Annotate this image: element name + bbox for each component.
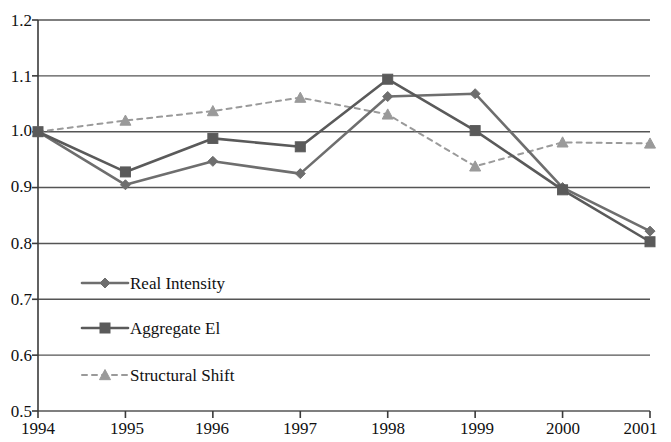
triangle-marker-icon <box>470 161 481 171</box>
legend-group <box>82 278 128 380</box>
y-tick-label-0-6: 0.6 <box>0 346 32 366</box>
y-tick-label-0-8: 0.8 <box>0 234 32 254</box>
diamond-marker-icon <box>100 278 110 288</box>
gridlines-group <box>38 20 650 411</box>
diamond-marker-icon <box>645 226 655 236</box>
x-tick-label-2001: 2001 <box>610 419 671 439</box>
x-tick-label-1994: 1994 <box>0 419 76 439</box>
series-real-intensity <box>33 89 655 236</box>
square-marker-icon <box>120 167 130 177</box>
chart-plot-area <box>0 0 671 442</box>
x-tick-label-2000: 2000 <box>525 419 601 439</box>
line-chart: 1.2 1.1 1.0 0.9 0.8 0.7 0.6 0.5 1994 199… <box>0 0 671 442</box>
square-marker-icon <box>470 126 480 136</box>
legend-label-real-intensity: Real Intensity <box>130 274 225 294</box>
x-tick-label-1998: 1998 <box>350 419 426 439</box>
square-marker-icon <box>295 142 305 152</box>
legend-label-structural-shift: Structural Shift <box>130 366 234 386</box>
x-tick-label-1999: 1999 <box>439 419 515 439</box>
y-tick-label-0-9: 0.9 <box>0 177 32 197</box>
x-tick-label-1997: 1997 <box>262 419 338 439</box>
series-aggregate-el <box>33 74 655 247</box>
y-tick-label-1-1: 1.1 <box>0 67 32 87</box>
y-tick-label-1-2: 1.2 <box>0 11 32 31</box>
square-marker-icon <box>383 74 393 84</box>
square-marker-icon <box>100 323 110 333</box>
square-marker-icon <box>558 185 568 195</box>
x-tick-label-1996: 1996 <box>174 419 250 439</box>
series-line <box>38 79 650 242</box>
y-tick-label-0-7: 0.7 <box>0 290 32 310</box>
square-marker-icon <box>645 237 655 247</box>
x-tick-label-1995: 1995 <box>89 419 165 439</box>
square-marker-icon <box>33 127 43 137</box>
diamond-marker-icon <box>208 156 218 166</box>
square-marker-icon <box>208 133 218 143</box>
y-tick-label-1-0: 1.0 <box>0 121 32 141</box>
legend-label-aggregate-ei: Aggregate El <box>130 319 220 339</box>
